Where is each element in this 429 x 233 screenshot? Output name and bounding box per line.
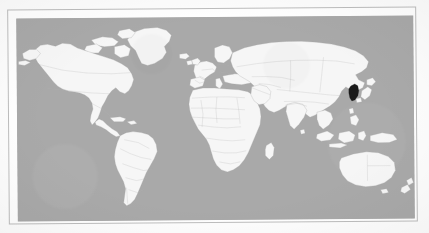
landmass-japan-kyushu: [356, 98, 362, 103]
world-map-figure: [7, 6, 418, 224]
landmass-ireland: [187, 60, 193, 65]
landmass-taiwan: [349, 108, 354, 114]
landmass-sri-lanka: [300, 129, 305, 134]
world-map-svg: [16, 15, 415, 221]
figure-mat: [11, 10, 414, 220]
scanned-figure-page: [0, 0, 429, 233]
world-map-plate: [16, 15, 415, 221]
